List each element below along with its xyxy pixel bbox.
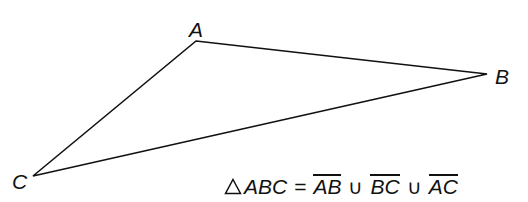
triangle-diagram (0, 0, 528, 202)
triangle-abc (33, 41, 487, 176)
triangle-icon (224, 178, 242, 195)
vertex-label-a: A (189, 19, 203, 40)
vertex-label-b: B (495, 66, 509, 87)
segment-bc: BC (370, 174, 399, 197)
union-symbol: ∪ (348, 177, 363, 197)
triangle-union-equation: ABC = AB ∪ BC ∪ AC (224, 174, 458, 197)
equals-sign: = (294, 176, 306, 197)
segment-ac: AC (429, 174, 458, 197)
segment-ab: AB (313, 174, 341, 197)
union-symbol: ∪ (407, 177, 422, 197)
triangle-name: ABC (244, 176, 287, 197)
vertex-label-c: C (12, 171, 27, 192)
